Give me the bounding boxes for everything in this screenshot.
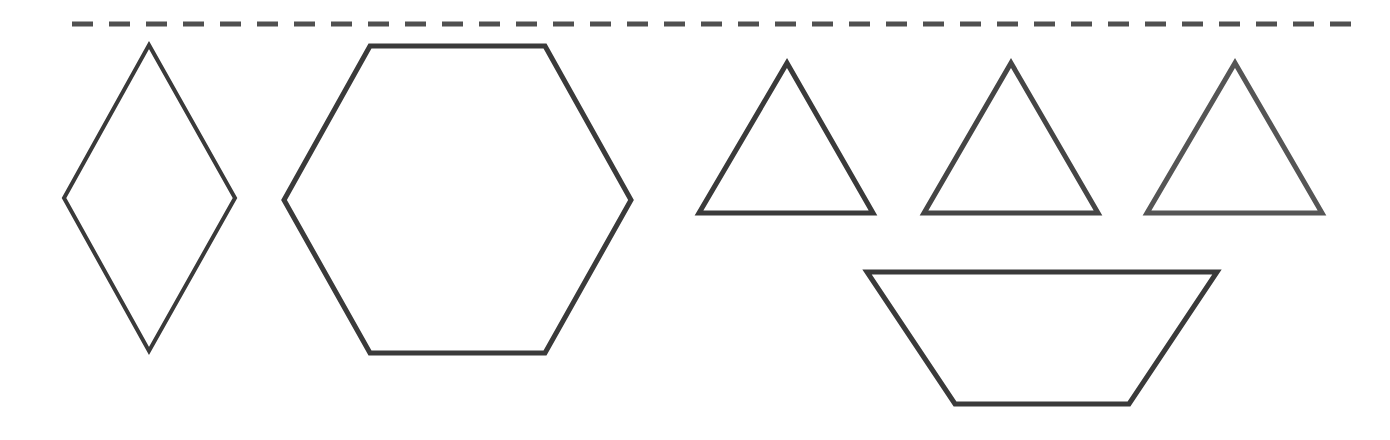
trapezoid-shape (867, 272, 1217, 404)
triangle-shape-2 (924, 63, 1098, 213)
triangle-shape-3 (1147, 63, 1322, 213)
hexagon-shape (284, 46, 631, 353)
rhombus-shape (64, 45, 235, 351)
pattern-block-diagram (0, 0, 1390, 440)
triangle-shape-1 (699, 63, 873, 213)
